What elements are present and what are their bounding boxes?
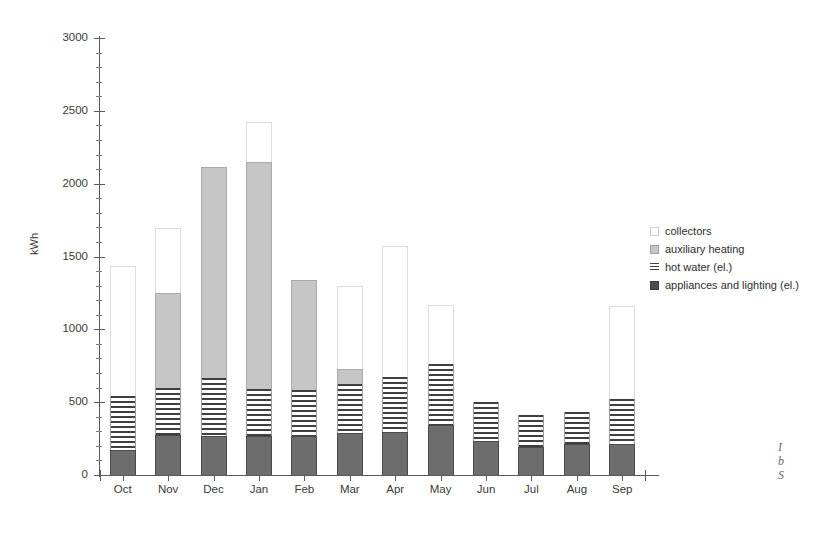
bar-segment <box>609 444 635 475</box>
bar-apr <box>382 246 408 475</box>
bar-feb <box>291 280 317 475</box>
bar-segment <box>110 450 136 475</box>
y-tick-label: 2500 <box>44 105 88 117</box>
legend-item: appliances and lighting (el.) <box>650 276 799 294</box>
bar-segment <box>246 436 272 475</box>
bar-aug <box>564 412 590 475</box>
x-axis-line <box>99 475 659 476</box>
bar-segment <box>155 435 181 475</box>
x-tick-label-nov: Nov <box>144 484 192 496</box>
bar-segment <box>110 266 136 396</box>
caption-line-2: b <box>778 454 785 468</box>
bar-segment <box>382 377 408 432</box>
bar-segment <box>337 433 363 475</box>
x-tick-label-may: May <box>417 484 465 496</box>
bar-segment <box>337 286 363 369</box>
bar-segment <box>246 162 272 389</box>
bar-segment <box>609 306 635 399</box>
y-tick-label: 500 <box>44 396 88 408</box>
collectors-swatch <box>650 227 659 236</box>
bar-mar <box>337 286 363 475</box>
legend: collectorsauxiliary heatinghot water (el… <box>650 222 799 294</box>
bar-segment <box>155 388 181 435</box>
bar-segment <box>609 399 635 443</box>
legend-label: hot water (el.) <box>665 261 732 273</box>
x-tick-label-jan: Jan <box>235 484 283 496</box>
x-tick-label-jul: Jul <box>507 484 555 496</box>
bar-segment <box>518 415 544 448</box>
y-tick-label: 3000 <box>44 32 88 44</box>
bar-segment <box>201 378 227 436</box>
bar-segment <box>337 384 363 433</box>
bar-segment <box>246 122 272 162</box>
bar-segment <box>518 447 544 475</box>
aux-heating-swatch <box>650 245 659 254</box>
figure-caption: I b S <box>778 440 785 482</box>
bar-segment <box>291 280 317 390</box>
bar-segment <box>110 396 136 450</box>
bar-segment <box>337 369 363 384</box>
y-tick-label: 1500 <box>44 251 88 263</box>
x-tick-label-mar: Mar <box>326 484 374 496</box>
x-tick-label-jun: Jun <box>462 484 510 496</box>
caption-line-3: S <box>778 468 785 482</box>
plot-area <box>100 38 645 475</box>
legend-label: auxiliary heating <box>665 243 745 255</box>
bar-segment <box>201 167 227 378</box>
bar-segment <box>564 412 590 443</box>
legend-label: collectors <box>665 225 711 237</box>
y-axis-label: kWh <box>28 233 40 255</box>
bar-dec <box>201 167 227 475</box>
bar-jul <box>518 415 544 475</box>
bar-nov <box>155 228 181 475</box>
bar-segment <box>473 441 499 475</box>
bar-segment <box>291 436 317 475</box>
x-tick <box>645 470 646 481</box>
bar-segment <box>201 436 227 475</box>
x-tick-label-apr: Apr <box>371 484 419 496</box>
x-tick-label-feb: Feb <box>280 484 328 496</box>
bar-oct <box>110 266 136 475</box>
bar-sep <box>609 306 635 475</box>
y-tick-label: 2000 <box>44 178 88 190</box>
x-tick-label-dec: Dec <box>190 484 238 496</box>
bar-segment <box>382 246 408 377</box>
bar-segment <box>428 425 454 475</box>
appliances-swatch <box>650 281 659 290</box>
x-tick-label-aug: Aug <box>553 484 601 496</box>
bar-segment <box>155 293 181 388</box>
bar-segment <box>382 432 408 475</box>
legend-label: appliances and lighting (el.) <box>665 279 799 291</box>
legend-item: auxiliary heating <box>650 240 799 258</box>
bar-segment <box>428 364 454 426</box>
bar-segment <box>155 228 181 293</box>
x-tick-label-sep: Sep <box>598 484 646 496</box>
bar-segment <box>564 444 590 475</box>
hot-water-swatch <box>650 263 659 272</box>
bar-segment <box>473 402 499 441</box>
caption-line-1: I <box>778 440 785 454</box>
bar-segment <box>428 305 454 363</box>
legend-item: hot water (el.) <box>650 258 799 276</box>
bar-jan <box>246 122 272 475</box>
bar-may <box>428 305 454 475</box>
legend-item: collectors <box>650 222 799 240</box>
bar-jun <box>473 402 499 475</box>
y-tick-label: 0 <box>44 469 88 481</box>
y-tick-label: 1000 <box>44 323 88 335</box>
bar-segment <box>291 390 317 437</box>
energy-balance-chart: kWh 050010001500200025003000 OctNovDecJa… <box>0 0 834 536</box>
bar-segment <box>246 389 272 436</box>
x-tick-label-oct: Oct <box>99 484 147 496</box>
